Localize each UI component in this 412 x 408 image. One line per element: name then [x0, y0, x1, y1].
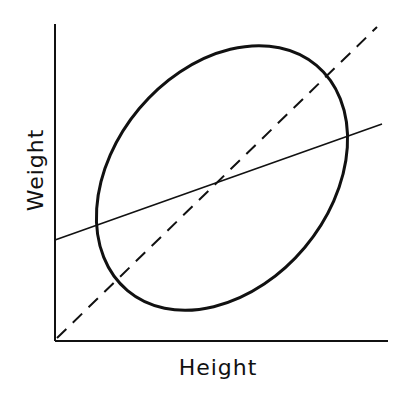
diagram-canvas: Height Weight — [0, 0, 412, 408]
y-axis-label: Weight — [23, 129, 48, 212]
regression-line — [55, 124, 382, 240]
x-axis-label: Height — [179, 355, 258, 380]
